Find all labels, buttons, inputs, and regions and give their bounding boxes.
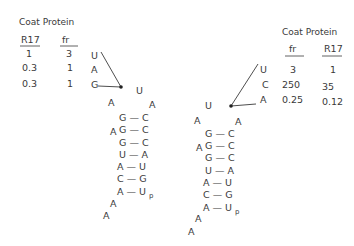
base-pair: G — C [205, 128, 235, 139]
right-row0-fr: 3 [290, 64, 296, 75]
right-table-header: Coat Protein [282, 27, 337, 37]
base-pair: A — U [117, 161, 146, 172]
right-col-r17: R17 [324, 43, 343, 54]
junction-dot [119, 85, 123, 89]
junction-dot [229, 104, 233, 108]
bulge: A [196, 142, 203, 153]
loop-left: A [108, 97, 115, 108]
phosphate-subscript: p [149, 192, 154, 200]
loop-right: A [235, 116, 242, 127]
left-row2-r17: 0.3 [22, 78, 37, 89]
left-col-fr: fr [62, 34, 69, 45]
left-table: Coat Protein R17 fr 1 3 U 0.3 1 A 0.3 1 … [19, 17, 98, 90]
base-pair: A — U [203, 177, 232, 188]
base-pair: A — U [117, 186, 146, 197]
right-col-fr: fr [289, 43, 296, 54]
connector-line [101, 52, 121, 87]
right-row2-base: A [260, 94, 267, 105]
right-row1-base: C [262, 79, 269, 90]
loop-top: U [205, 100, 212, 111]
base-pair: G — C [119, 124, 149, 135]
loop-top: U [136, 85, 143, 96]
base-pair: G — C [205, 140, 235, 151]
phosphate-subscript: p [235, 208, 240, 216]
base-pair: G — C [119, 112, 149, 123]
loop-left: A [194, 115, 201, 126]
right-row1-r17: 35 [322, 81, 334, 92]
right-table: Coat Protein fr R17 U 3 1 C 250 35 A 0.2… [260, 27, 343, 107]
rna-hairpin-diagram: Coat Protein R17 fr 1 3 U 0.3 1 A 0.3 1 … [0, 0, 354, 246]
connector-line [231, 64, 258, 106]
left-row0-r17: 1 [26, 48, 32, 59]
connector-line [98, 86, 121, 87]
bulge: A [110, 126, 117, 137]
right-row2-fr: 0.25 [282, 94, 303, 105]
base-pair: U — A [205, 165, 234, 176]
tail-base: A [110, 198, 117, 209]
base-pair: G — C [119, 137, 149, 148]
left-row1-fr: 1 [67, 62, 73, 73]
left-row1-base: A [91, 64, 98, 75]
base-pair: U — A [119, 149, 148, 160]
tail-base: A [188, 226, 195, 237]
right-row0-r17: 1 [330, 64, 336, 75]
tail-base: A [195, 213, 202, 224]
base-pair: G — C [205, 152, 235, 163]
left-row0-base: U [91, 50, 98, 61]
loop-right: A [149, 99, 156, 110]
left-hairpin: U A A G — C A G — C G — C U — A A — U C … [103, 85, 156, 221]
left-row0-fr: 3 [66, 48, 72, 59]
left-row1-r17: 0.3 [22, 62, 37, 73]
right-row1-fr: 250 [282, 79, 300, 90]
base-pair: C — G [117, 173, 147, 184]
right-row0-base: U [260, 64, 267, 75]
left-row2-fr: 1 [67, 78, 73, 89]
left-row2-base: G [91, 79, 98, 90]
base-pair: C — G [203, 189, 233, 200]
tail-base: A [103, 210, 110, 221]
connector-line [231, 104, 256, 106]
left-table-header: Coat Protein [19, 17, 74, 27]
right-row2-r17: 0.12 [322, 96, 343, 107]
left-col-r17: R17 [21, 34, 40, 45]
base-pair: A — U [203, 202, 232, 213]
right-hairpin: U A A G — C A G — C G — C U — A A — U C … [188, 100, 242, 237]
